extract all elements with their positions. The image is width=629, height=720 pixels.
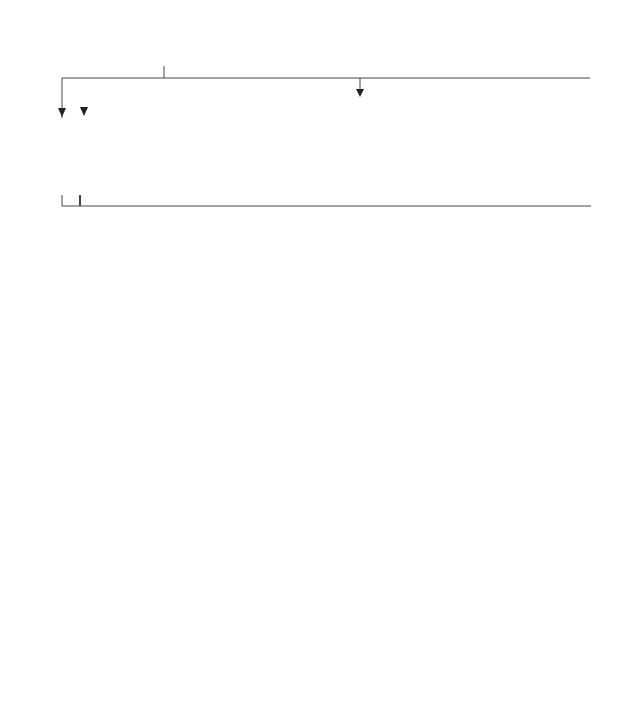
connector [62, 78, 590, 118]
arrowhead-small [356, 89, 364, 97]
connector [62, 195, 591, 206]
arrowhead [80, 107, 88, 116]
connector-layer [0, 0, 629, 720]
arrowhead [58, 108, 66, 117]
